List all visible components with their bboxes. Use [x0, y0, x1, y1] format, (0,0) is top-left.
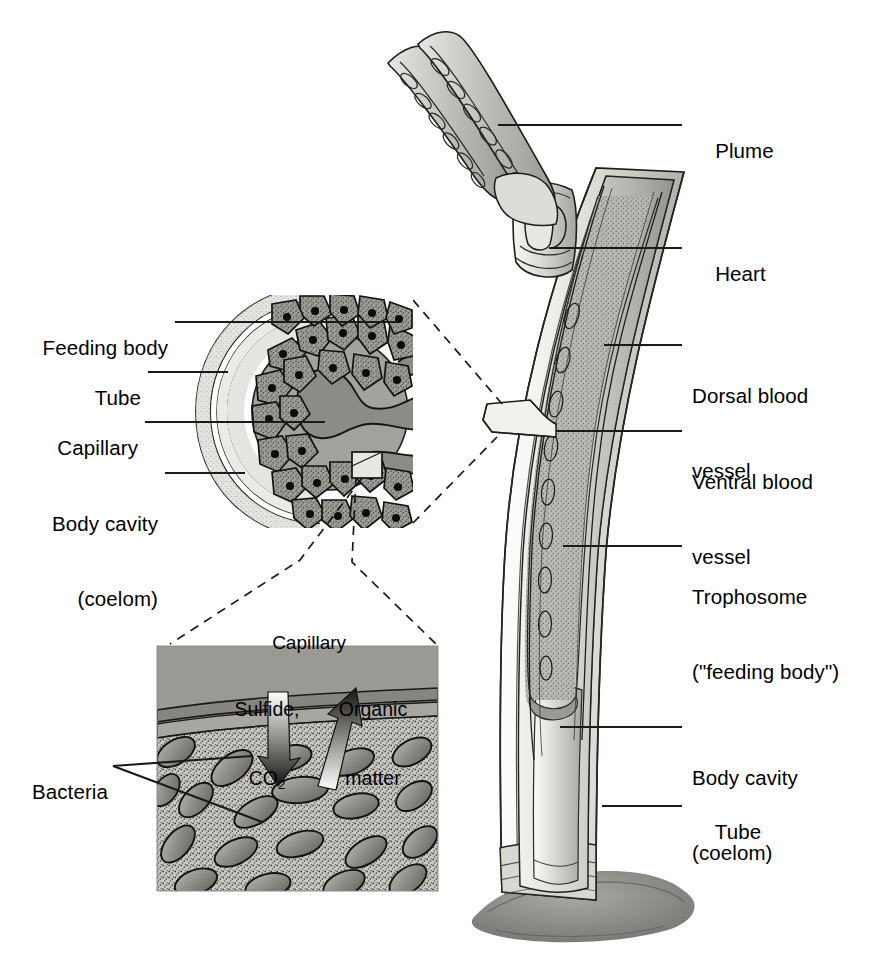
label-feeding-body-line1: Feeding body [43, 336, 168, 359]
label-plume: Plume [692, 113, 774, 188]
figure-canvas: Plume Heart Dorsal blood vessel Ventral … [0, 0, 896, 971]
label-bacteria: Bacteria [0, 754, 108, 829]
label-tube-main-line1: Tube [715, 820, 761, 843]
label-capillary-cross-line1: Capillary [57, 436, 138, 459]
label-tube-main: Tube [692, 794, 761, 869]
label-co2-subscript: 2 [278, 777, 285, 792]
label-body-cavity-cross: Body cavity (coelom) [0, 461, 158, 661]
label-body-cavity-cross-line1: Body cavity [0, 511, 158, 536]
label-organic-line1: Organic [318, 698, 428, 721]
label-trophosome-line2: ("feeding body") [692, 659, 839, 684]
label-tube-cross-line1: Tube [95, 386, 141, 409]
label-trophosome-line1: Trophosome [692, 584, 839, 609]
label-heart-line1: Heart [715, 262, 766, 285]
label-body-cavity-cross-line2: (coelom) [0, 586, 158, 611]
inset-source-box [352, 452, 382, 478]
label-bacteria-line1: Bacteria [32, 780, 108, 803]
plume [388, 32, 558, 226]
label-heart: Heart [692, 236, 766, 311]
label-sulfide-co2: Sulfide, CO2 [212, 652, 322, 842]
label-organic-line2: matter [318, 767, 428, 790]
label-trophosome: Trophosome ("feeding body") [692, 534, 839, 734]
label-capillary-inset-text: Capillary [272, 632, 346, 653]
label-plume-line1: Plume [715, 139, 774, 162]
label-co2-text: CO [249, 767, 278, 789]
label-organic-matter: Organic matter [318, 652, 428, 836]
label-ventral-line1: Ventral blood [692, 469, 813, 494]
cross-section-panel [188, 286, 420, 538]
label-dorsal-line1: Dorsal blood [692, 383, 808, 408]
label-sulfide-line1: Sulfide, [212, 698, 322, 721]
label-body-cavity-main-line1: Body cavity [692, 765, 798, 790]
label-co2-line2: CO2 [212, 767, 322, 796]
